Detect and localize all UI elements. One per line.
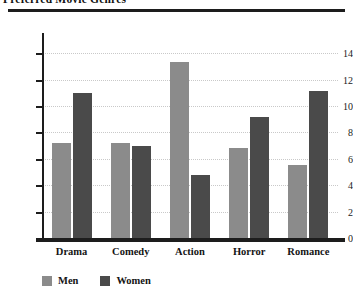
x-axis-labels: DramaComedyActionHorrorRomance: [42, 246, 338, 257]
bar-drama-women: [73, 93, 92, 238]
plot-area: [42, 40, 338, 238]
legend-swatch-icon: [100, 276, 110, 286]
x-tick-label: Comedy: [103, 246, 159, 257]
bar-action-men: [170, 62, 189, 238]
bar-groups: [42, 40, 338, 238]
legend-item-men: Men: [42, 275, 78, 286]
legend-item-women: Women: [100, 275, 150, 286]
bar-horror-men: [229, 148, 248, 238]
x-tick-label: Horror: [221, 246, 277, 257]
x-tick-label: Romance: [280, 246, 336, 257]
bar-action-women: [191, 175, 210, 238]
chart-title-clipped: Preferred Movie Genres: [0, 0, 353, 7]
bar-horror-women: [250, 117, 269, 238]
bar-comedy-men: [111, 143, 130, 238]
bar-group: [221, 40, 277, 238]
bar-chart: Preferred Movie Genres 0 2 4 6 8 10 12 1…: [0, 0, 353, 299]
chart-legend: MenWomen: [42, 275, 151, 286]
bar-drama-men: [52, 143, 71, 238]
legend-swatch-icon: [42, 276, 52, 286]
x-tick-label: Action: [162, 246, 218, 257]
y-axis-line: [42, 33, 44, 239]
bar-comedy-women: [132, 146, 151, 238]
x-axis-baseline: [36, 238, 345, 242]
x-tick-label: Drama: [44, 246, 100, 257]
top-rule-divider: [8, 9, 345, 12]
bar-group: [280, 40, 336, 238]
bar-romance-women: [309, 91, 328, 238]
bar-group: [44, 40, 100, 238]
bar-romance-men: [288, 165, 307, 238]
legend-label: Men: [58, 275, 78, 286]
y-axis-ticks: [0, 0, 42, 299]
bar-group: [162, 40, 218, 238]
legend-label: Women: [116, 275, 150, 286]
bar-group: [103, 40, 159, 238]
